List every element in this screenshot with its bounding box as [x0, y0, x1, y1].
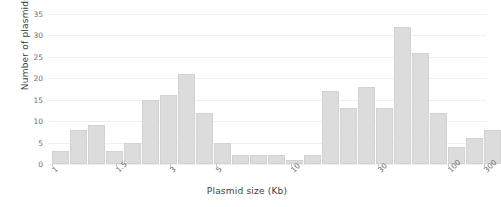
y-axis-title: Number of plasmids — [20, 0, 30, 123]
y-tick-label-20: 20 — [33, 74, 43, 83]
gridline-35 — [48, 14, 486, 15]
bar-24 — [466, 138, 483, 164]
x-axis: 11.5351030100300 — [48, 164, 486, 186]
gridline-30 — [48, 35, 486, 36]
bar-15 — [304, 155, 321, 164]
bar-18 — [358, 87, 375, 164]
y-tick-label-10: 10 — [33, 117, 43, 126]
bar-17 — [340, 108, 357, 164]
bar-8 — [178, 74, 195, 164]
bar-13 — [268, 155, 285, 164]
bar-12 — [250, 155, 267, 164]
bar-6 — [142, 100, 159, 164]
y-tick-label-0: 0 — [38, 160, 43, 169]
y-tick-label-35: 35 — [33, 10, 43, 19]
y-tick-label-30: 30 — [33, 31, 43, 40]
plot-area: 05101520253035 — [48, 14, 486, 164]
bar-7 — [160, 95, 177, 164]
bar-3 — [88, 125, 105, 164]
bar-5 — [124, 143, 141, 164]
bar-19 — [376, 108, 393, 164]
y-tick-label-5: 5 — [38, 138, 43, 147]
bar-22 — [430, 113, 447, 164]
bar-21 — [412, 53, 429, 164]
bar-2 — [70, 130, 87, 164]
x-axis-title: Plasmid size (Kb) — [0, 186, 494, 196]
x-tick-label-1: 1 — [50, 165, 60, 175]
y-tick-label-15: 15 — [33, 95, 43, 104]
bar-1 — [52, 151, 69, 164]
x-tick-label-5: 5 — [214, 165, 224, 175]
bar-16 — [322, 91, 339, 164]
x-tick-label-3: 3 — [168, 165, 178, 175]
bar-10 — [214, 143, 231, 164]
y-tick-label-25: 25 — [33, 52, 43, 61]
bar-20 — [394, 27, 411, 164]
bar-9 — [196, 113, 213, 164]
bar-11 — [232, 155, 249, 164]
